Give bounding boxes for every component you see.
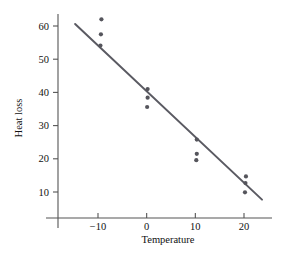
x-tick-label: 10 <box>190 221 201 232</box>
y-tick-label: 10 <box>39 187 50 198</box>
tick-labels-group: 102030405060−1001020 <box>39 21 250 232</box>
data-point <box>195 152 199 156</box>
tick-marks-group <box>53 26 244 218</box>
y-tick-label: 30 <box>39 120 50 131</box>
regression-line <box>75 24 262 200</box>
data-point <box>195 137 199 141</box>
y-tick-label: 60 <box>39 21 50 32</box>
data-point <box>244 174 248 178</box>
x-tick-label: 0 <box>144 221 149 232</box>
data-point <box>99 17 103 21</box>
data-point <box>243 190 247 194</box>
data-point <box>146 87 150 91</box>
y-tick-label: 40 <box>39 87 50 98</box>
regression-line-group <box>75 24 262 200</box>
y-tick-label: 50 <box>39 54 50 65</box>
y-tick-label: 20 <box>39 153 50 164</box>
data-point <box>194 158 198 162</box>
data-point <box>243 181 247 185</box>
x-tick-label: −10 <box>90 221 106 232</box>
data-point <box>99 32 103 36</box>
data-points-group <box>98 17 248 194</box>
x-tick-label: 20 <box>239 221 250 232</box>
axes-group <box>46 14 272 228</box>
data-point <box>146 96 150 100</box>
plot-canvas: 102030405060−1001020 Temperature Heat lo… <box>0 0 286 257</box>
y-axis-title: Heat loss <box>13 99 24 138</box>
x-axis-title: Temperature <box>142 234 195 245</box>
data-point <box>145 105 149 109</box>
data-point <box>98 43 102 47</box>
scatter-plot-figure: 102030405060−1001020 Temperature Heat lo… <box>0 0 286 257</box>
